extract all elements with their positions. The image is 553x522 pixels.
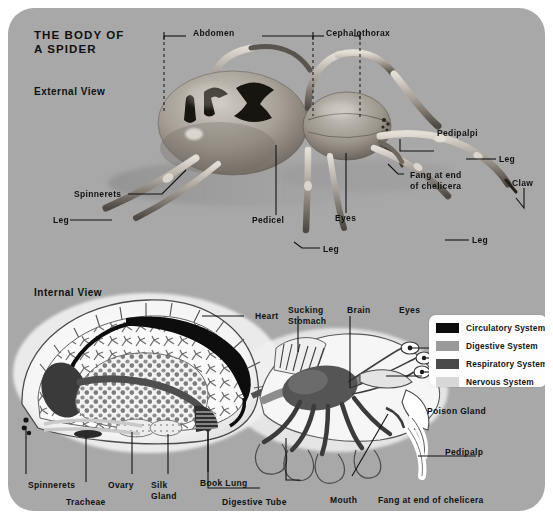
cephalothorax-cross-section <box>256 334 440 483</box>
legend-item-digestive: Digestive System <box>436 338 545 354</box>
label-eyes-internal: Eyes <box>399 305 420 316</box>
legend-swatch-respiratory <box>436 359 459 369</box>
label-leg-right-upper: Leg <box>499 154 515 165</box>
label-ovary: Ovary <box>108 480 134 491</box>
label-claw: Claw <box>512 178 533 189</box>
legend-item-nervous: Nervous System <box>436 374 545 390</box>
label-digestive-tube: Digestive Tube <box>222 497 287 508</box>
label-mouth: Mouth <box>330 495 357 506</box>
legend-item-circulatory: Circulatory System <box>436 320 545 336</box>
label-tracheae: Tracheae <box>66 497 106 508</box>
label-silk-gland: Silk Gland <box>151 480 177 501</box>
legend-item-respiratory: Respiratory System <box>436 356 545 372</box>
legend-label-digestive: Digestive System <box>466 341 538 351</box>
legend-box: Circulatory System Digestive System Resp… <box>429 315 545 387</box>
bracket-label-abdomen: Abdomen <box>193 28 235 39</box>
label-pedipalpi: Pedipalpi <box>437 128 478 139</box>
legend-swatch-nervous <box>436 377 459 387</box>
label-fang-at-end-of-chelicera: Fang at end of chelicera <box>410 170 490 191</box>
legend-label-nervous: Nervous System <box>466 377 534 387</box>
legend-swatch-digestive <box>436 341 459 351</box>
abdomen-body <box>158 71 308 175</box>
label-leg-right-lower: Leg <box>472 235 488 246</box>
label-book-lung: Book Lung <box>200 478 248 489</box>
legend-swatch-circulatory <box>436 323 459 333</box>
label-fang-chelicera-internal: Fang at end of chelicera <box>378 495 484 506</box>
label-leg-left: Leg <box>53 215 69 226</box>
label-spinnerets-internal: Spinnerets <box>28 480 75 491</box>
label-heart: Heart <box>255 311 278 322</box>
label-eyes-external: Eyes <box>335 213 356 224</box>
label-spinnerets: Spinnerets <box>74 189 121 200</box>
label-pedicel: Pedicel <box>252 215 284 226</box>
bracket-label-cephalothorax: Cephalothorax <box>326 28 390 39</box>
label-poison-gland: Poison Gland <box>427 406 486 417</box>
plate-card: THE BODY OF A SPIDER External View <box>8 8 545 511</box>
label-brain: Brain <box>347 305 370 316</box>
label-sucking-stomach: Sucking Stomach <box>288 305 326 326</box>
legend-label-circulatory: Circulatory System <box>466 323 545 333</box>
legend-label-respiratory: Respiratory System <box>466 359 545 369</box>
spider-anatomy-plate: THE BODY OF A SPIDER External View <box>0 0 553 522</box>
label-pedipalp: Pedipalp <box>445 447 483 458</box>
label-leg-center: Leg <box>323 244 339 255</box>
